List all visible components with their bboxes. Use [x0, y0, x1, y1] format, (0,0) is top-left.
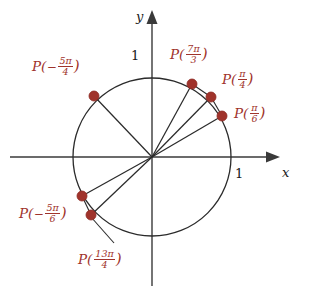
leader-line-13pi-over-4: [91, 217, 114, 243]
label-denominator: 6: [45, 214, 60, 224]
x-tick-one-label: 1: [235, 167, 243, 180]
label-numerator: 7π: [186, 44, 201, 55]
label-fraction: 5π4: [58, 56, 73, 77]
label-fraction: 7π3: [186, 44, 201, 65]
y-axis-arrowhead: [147, 10, 158, 24]
label-fraction: π6: [250, 103, 259, 124]
label-p-char: P(: [222, 73, 236, 87]
label-numerator: π: [238, 69, 247, 80]
label-sign: −: [46, 61, 57, 73]
label-close-paren: ): [116, 252, 122, 267]
point-pi-over-4[interactable]: [206, 92, 216, 102]
label-point-negative-5pi-over-6: P(−5π6): [19, 203, 67, 224]
label-fraction: 5π6: [45, 203, 60, 224]
label-point-7pi-over-3: P(7π3): [170, 44, 208, 65]
label-point-pi-over-6: P(π6): [234, 103, 265, 124]
y-axis-label: y: [136, 10, 143, 23]
ray-negative-5pi-over-4: [94, 96, 152, 157]
label-p-char: P(: [19, 207, 33, 221]
label-sign: −: [33, 208, 44, 220]
label-close-paren: ): [61, 206, 67, 221]
label-p-char: P(: [32, 60, 46, 74]
label-numerator: 5π: [45, 203, 60, 214]
label-denominator: 3: [186, 55, 201, 65]
label-p-char: P(: [78, 253, 92, 267]
point-7pi-over-3[interactable]: [187, 79, 197, 89]
y-axis: [147, 10, 158, 286]
ray-7pi-over-3: [152, 84, 192, 157]
label-point-pi-over-4: P(π4): [222, 69, 253, 90]
y-tick-one-label: 1: [131, 49, 139, 62]
label-numerator: 13π: [94, 249, 115, 260]
label-close-paren: ): [74, 59, 80, 74]
label-p-char: P(: [234, 107, 248, 121]
label-p-char: P(: [170, 48, 184, 62]
point-pi-over-6[interactable]: [217, 111, 227, 121]
label-fraction: π4: [238, 69, 247, 90]
figure-canvas: [0, 0, 310, 292]
label-denominator: 4: [94, 260, 115, 270]
x-axis-arrowhead: [266, 152, 280, 163]
point-negative-5pi-over-4[interactable]: [89, 91, 99, 101]
label-numerator: π: [250, 103, 259, 114]
label-denominator: 6: [250, 114, 259, 124]
label-denominator: 4: [238, 80, 247, 90]
label-close-paren: ): [248, 72, 254, 87]
label-point-13pi-over-4: P(13π4): [78, 249, 122, 270]
label-numerator: 5π: [58, 56, 73, 67]
unit-circle-figure: y x 1 1 P(7π3) P(π4) P(π6) P(−5π4) P(−5π…: [0, 0, 310, 292]
label-close-paren: ): [260, 106, 266, 121]
label-fraction: 13π4: [94, 249, 115, 270]
point-negative-5pi-over-6[interactable]: [77, 191, 87, 201]
label-close-paren: ): [202, 47, 208, 62]
label-point-negative-5pi-over-4: P(−5π4): [32, 56, 80, 77]
x-axis-label: x: [282, 166, 289, 179]
label-denominator: 4: [58, 67, 73, 77]
point-13pi-over-4[interactable]: [86, 210, 96, 220]
